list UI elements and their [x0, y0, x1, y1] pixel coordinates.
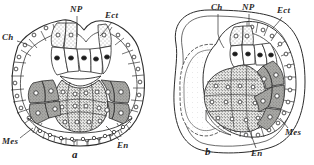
panel-caption-b: b [205, 146, 211, 157]
label-ect-panel-a: Ect [105, 11, 118, 20]
embryology-figure: NP Ect Ch Mes En a Ch NP Ect Mes En b [0, 0, 314, 165]
label-en-panel-a: En [117, 141, 128, 150]
label-mes-panel-a: Mes [2, 137, 18, 146]
label-np-panel-b: NP [242, 3, 254, 12]
label-ect-panel-b: Ect [277, 6, 290, 15]
panel-caption-a: a [72, 149, 78, 160]
figure-drawing [0, 0, 314, 165]
label-np-panel-a: NP [70, 5, 82, 14]
label-ch-panel-a: Ch [2, 33, 13, 42]
label-en-panel-b: En [251, 149, 262, 158]
label-ch-panel-b: Ch [211, 3, 222, 12]
panel-a-drawing [11, 20, 145, 146]
label-mes-panel-b: Mes [285, 128, 301, 137]
